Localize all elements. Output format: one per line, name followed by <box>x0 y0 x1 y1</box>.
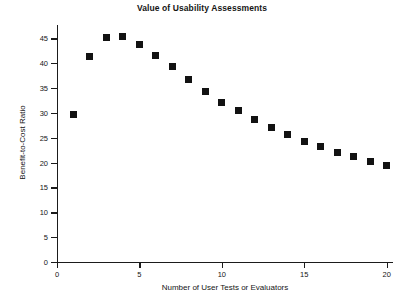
x-axis-tick-label: 15 <box>292 270 316 279</box>
data-point <box>235 107 242 114</box>
data-point <box>284 131 291 138</box>
x-axis-tick-label: 5 <box>127 270 151 279</box>
x-axis-tick <box>304 262 305 268</box>
data-point <box>268 124 275 131</box>
data-point <box>301 138 308 145</box>
x-axis-tick-label: 10 <box>210 270 234 279</box>
data-point <box>334 149 341 156</box>
data-point <box>169 63 176 70</box>
data-point <box>202 88 209 95</box>
data-point <box>218 99 225 106</box>
y-axis-tick-label: 0 <box>22 258 48 267</box>
x-axis-title: Number of User Tests or Evaluators <box>57 283 393 292</box>
x-axis-tick-label: 20 <box>375 270 399 279</box>
data-point <box>251 116 258 123</box>
data-point <box>70 111 77 118</box>
data-point <box>152 52 159 59</box>
data-point <box>86 53 93 60</box>
data-point <box>103 34 110 41</box>
data-point <box>317 143 324 150</box>
chart-title: Value of Usability Assessments <box>0 3 404 13</box>
plot-area <box>57 25 390 262</box>
x-axis-tick <box>139 262 140 268</box>
data-point <box>136 41 143 48</box>
x-axis-tick <box>387 262 388 268</box>
data-point <box>185 76 192 83</box>
chart-figure: Value of Usability Assessments 051015202… <box>0 0 404 308</box>
x-axis-tick-label: 0 <box>45 270 69 279</box>
y-axis-tick-label: 45 <box>22 34 48 43</box>
y-axis-title: Benefit-to-Cost Ratio <box>18 53 27 233</box>
y-axis-tick-label: 5 <box>22 233 48 242</box>
data-point <box>119 33 126 40</box>
x-axis-tick <box>222 262 223 268</box>
x-axis-tick <box>57 262 58 268</box>
data-point <box>367 158 374 165</box>
data-point <box>350 153 357 160</box>
data-point <box>383 162 390 169</box>
